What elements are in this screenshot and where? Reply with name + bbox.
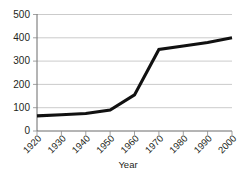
line-chart: 500 400 300 200 100 0 1920 1930 1940 195…	[0, 0, 249, 173]
y-axis-label-200: 200	[13, 79, 30, 90]
x-axis-title: Year	[118, 159, 137, 170]
y-axis-label-500: 500	[13, 9, 30, 20]
y-axis-label-400: 400	[13, 32, 30, 43]
chart-canvas: 500 400 300 200 100 0 1920 1930 1940 195…	[0, 0, 249, 173]
y-axis-label-100: 100	[13, 102, 30, 113]
y-axis-label-300: 300	[13, 55, 30, 66]
y-axis-label-0: 0	[24, 125, 30, 136]
